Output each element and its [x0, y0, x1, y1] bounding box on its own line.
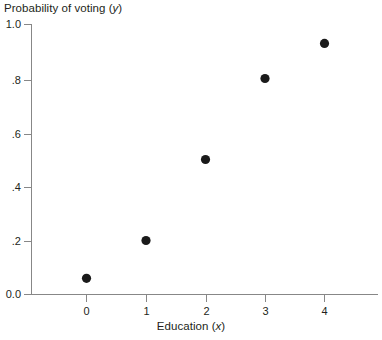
x-tick-label-4: 4 — [321, 305, 327, 317]
data-point — [201, 155, 210, 164]
y-tick-label-1.0: 1.0 — [6, 18, 21, 30]
x-tick-label-1: 1 — [143, 305, 149, 317]
x-tick-label-2: 2 — [203, 305, 209, 317]
x-tick-label-3: 3 — [262, 305, 268, 317]
x-axis-title-suffix: ) — [221, 320, 225, 333]
data-points-layer — [82, 39, 329, 283]
y-tick-label-0.2: .2 — [12, 235, 21, 247]
y-tick-label-0.0: 0.0 — [6, 288, 21, 300]
data-point — [82, 274, 91, 283]
data-point — [260, 74, 269, 83]
plot-area: 1.0 .8 .6 .4 .2 0.0 0 1 2 3 4 — [0, 0, 382, 340]
y-tick-label-0.8: .8 — [12, 74, 21, 86]
y-tick-label-0.6: .6 — [12, 128, 21, 140]
y-tick-label-0.4: .4 — [12, 181, 21, 193]
data-point — [141, 236, 150, 245]
scatter-chart: Probability of voting (y) 1.0 .8 .6 .4 .… — [0, 0, 382, 340]
data-point — [320, 39, 329, 48]
x-axis-title: Education (x) — [0, 320, 382, 333]
x-axis-title-prefix: Education ( — [157, 320, 216, 333]
x-tick-label-0: 0 — [83, 305, 89, 317]
